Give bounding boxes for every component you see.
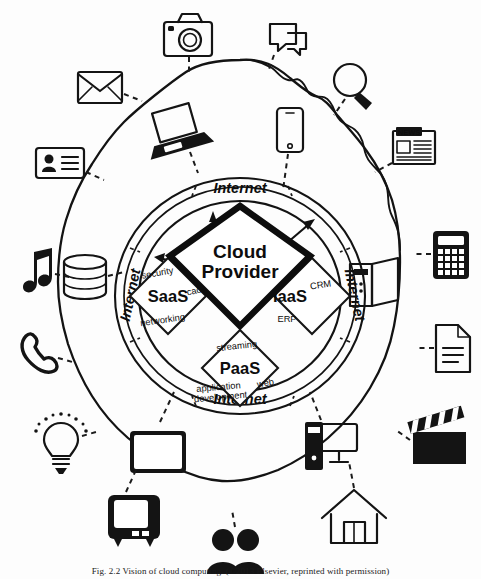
news-label: NEWS (398, 128, 421, 137)
house-icon (322, 490, 386, 543)
music-note-icon (23, 248, 52, 292)
paas-tag-web: web (255, 377, 275, 390)
television-icon (108, 495, 160, 547)
magnifier-icon (334, 64, 372, 110)
calculator-icon (433, 231, 469, 279)
smartphone-icon (277, 108, 303, 152)
link-envelope (124, 94, 142, 101)
lightbulb-icon (34, 412, 88, 474)
link-clapper (396, 430, 410, 440)
cloud-provider-line1: Cloud (213, 241, 267, 262)
document-icon (436, 325, 470, 372)
link-smartphone (283, 154, 288, 190)
paas-label: PaaS (220, 359, 260, 377)
internet-label-top: Internet (213, 180, 267, 196)
chat-bubbles-icon (270, 24, 306, 55)
cloud-provider-line2: Provider (201, 261, 279, 282)
figure-caption: Fig. 2.2 Vision of cloud computing. (©20… (0, 566, 481, 579)
newspaper-icon: NEWS (393, 127, 435, 164)
clapperboard-icon (407, 406, 466, 464)
link-television (126, 470, 136, 492)
link-tablet (160, 392, 174, 422)
phone-handset-icon (22, 334, 57, 372)
link-lightbulb (82, 432, 96, 436)
link-house (349, 462, 354, 488)
cloud-computing-diagram: Internet Internet Internet Internet SaaS… (0, 0, 481, 579)
database-icon (64, 255, 106, 299)
figure-root: Internet Internet Internet Internet SaaS… (0, 0, 481, 579)
desktop-pc-icon (305, 422, 357, 470)
iaas-tag-erp: ERP (277, 314, 296, 324)
camera-icon (164, 14, 212, 56)
link-people (232, 510, 235, 527)
link-idcard (86, 172, 104, 180)
link-laptop (190, 152, 198, 173)
tablet-icon (130, 431, 186, 473)
link-desktop (310, 392, 321, 420)
id-card-icon (36, 148, 84, 178)
saas-label: SaaS (148, 287, 188, 305)
envelope-icon (78, 72, 122, 103)
laptop-icon (139, 99, 215, 159)
